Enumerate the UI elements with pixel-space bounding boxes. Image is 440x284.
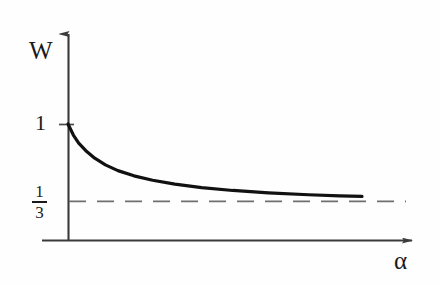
figure-canvas: W α 1 1 3 <box>0 0 440 284</box>
y-tick-label-one-third: 1 3 <box>32 183 47 221</box>
fraction-denominator: 3 <box>34 204 45 221</box>
axes-group <box>42 34 412 241</box>
y-tick-label-one: 1 <box>35 112 46 134</box>
x-axis-label: α <box>394 248 407 273</box>
plot-svg <box>0 0 440 284</box>
decay-curve <box>68 124 362 196</box>
fraction-numerator: 1 <box>34 183 45 200</box>
y-axis-label: W <box>29 38 53 63</box>
